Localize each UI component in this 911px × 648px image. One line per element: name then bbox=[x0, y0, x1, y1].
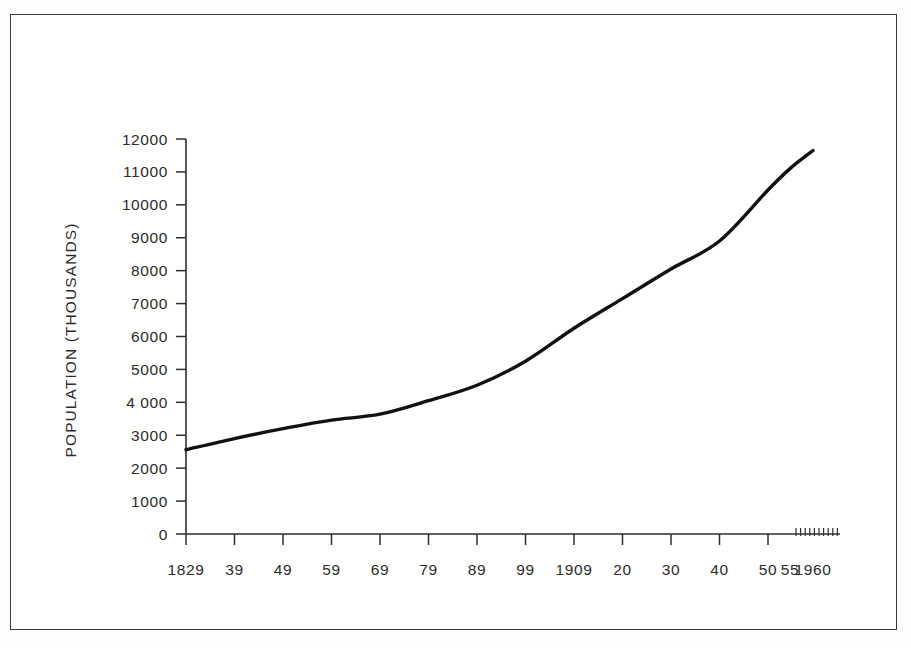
y-tick-label-group: 01000200030004 0005000600070008000900010… bbox=[122, 131, 168, 543]
x-tick-label-group: 182939495969798999190920304050551960 bbox=[168, 561, 832, 578]
y-tick-label-1000: 1000 bbox=[131, 493, 168, 510]
y-tick-label-12000: 12000 bbox=[122, 131, 168, 148]
x-tick-label-1869: 69 bbox=[371, 561, 389, 578]
x-tick-label-1879: 79 bbox=[419, 561, 437, 578]
y-tick-label-2000: 2000 bbox=[131, 460, 168, 477]
x-tick-label-1849: 49 bbox=[274, 561, 292, 578]
x-tick-label-1940: 40 bbox=[710, 561, 728, 578]
x-tick-label-1889: 89 bbox=[468, 561, 486, 578]
y-tick-label-7000: 7000 bbox=[131, 295, 168, 312]
x-tick-label-1960: 1960 bbox=[795, 561, 832, 578]
x-tick-group bbox=[186, 534, 768, 545]
population-line-series bbox=[186, 151, 813, 450]
chart-plot-area: 01000200030004 0005000600070008000900010… bbox=[0, 0, 911, 648]
figure-container: 01000200030004 0005000600070008000900010… bbox=[0, 0, 911, 648]
x-tick-label-1899: 99 bbox=[516, 561, 534, 578]
x-tick-label-1829: 1829 bbox=[168, 561, 205, 578]
y-tick-group bbox=[176, 139, 186, 534]
y-tick-label-4000: 4 000 bbox=[126, 394, 168, 411]
y-axis-title: POPULATION (THOUSANDS) bbox=[62, 223, 79, 458]
x-tick-label-1950: 50 bbox=[759, 561, 777, 578]
y-tick-label-10000: 10000 bbox=[122, 196, 168, 213]
y-tick-label-8000: 8000 bbox=[131, 262, 168, 279]
x-tick-label-1839: 39 bbox=[225, 561, 243, 578]
x-tick-label-1859: 59 bbox=[322, 561, 340, 578]
y-tick-label-11000: 11000 bbox=[123, 163, 168, 180]
y-tick-label-9000: 9000 bbox=[131, 229, 168, 246]
x-tick-label-1909: 1909 bbox=[556, 561, 593, 578]
x-tick-label-1920: 20 bbox=[613, 561, 631, 578]
x-tick-label-1930: 30 bbox=[662, 561, 680, 578]
y-tick-label-3000: 3000 bbox=[131, 427, 168, 444]
y-tick-label-5000: 5000 bbox=[131, 361, 168, 378]
y-tick-label-6000: 6000 bbox=[131, 328, 168, 345]
y-tick-label-0: 0 bbox=[159, 526, 168, 543]
